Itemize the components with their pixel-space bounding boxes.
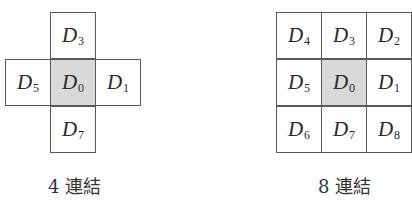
- cell-d2: D2: [366, 12, 412, 59]
- cell-d1: D1: [366, 59, 412, 106]
- cell-label: D0: [333, 72, 355, 94]
- cell-label: D7: [62, 119, 84, 141]
- cell-d6: D6: [276, 106, 322, 153]
- cell-label: D7: [333, 119, 355, 141]
- cell-label: D3: [62, 25, 84, 47]
- cell-label: D6: [288, 119, 310, 141]
- cell-label: D2: [378, 25, 400, 47]
- eight-connectivity-caption: 8 連結: [318, 172, 371, 198]
- cell-label: D1: [107, 72, 129, 94]
- cell-d7: D7: [50, 106, 96, 153]
- cell-label: D8: [378, 119, 400, 141]
- cell-d7: D7: [321, 106, 367, 153]
- cell-d0-center: D0: [50, 59, 96, 106]
- cell-label: D5: [17, 72, 39, 94]
- cell-d5: D5: [276, 59, 322, 106]
- cell-d8: D8: [366, 106, 412, 153]
- cell-label: D5: [288, 72, 310, 94]
- cell-d3: D3: [50, 12, 96, 59]
- cell-d1: D1: [95, 59, 141, 106]
- cell-d5: D5: [5, 59, 51, 106]
- cell-d3: D3: [321, 12, 367, 59]
- cell-label: D0: [62, 72, 84, 94]
- four-connectivity-caption: 4 連結: [48, 172, 101, 198]
- cell-d4: D4: [276, 12, 322, 59]
- cell-d0-center: D0: [321, 59, 367, 106]
- cell-label: D1: [378, 72, 400, 94]
- cell-label: D4: [288, 25, 310, 47]
- cell-label: D3: [333, 25, 355, 47]
